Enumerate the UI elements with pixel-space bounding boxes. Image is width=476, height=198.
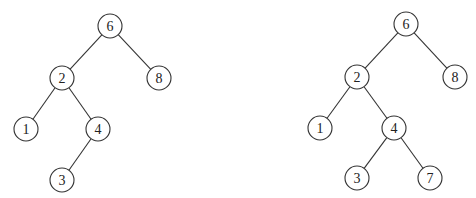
node-label: 2 [59,71,66,86]
node-label: 7 [427,171,434,186]
tree-node: 3 [345,166,369,190]
tree-node: 6 [98,14,122,38]
node-label: 8 [452,70,459,85]
tree-right-edges [327,33,447,169]
tree-node: 4 [382,116,406,140]
node-label: 2 [354,70,361,85]
edges-layer [33,33,447,170]
tree-right-nodes: 6281437 [308,12,467,190]
tree-left-nodes: 628143 [14,14,171,192]
node-label: 3 [354,171,361,186]
tree-node: 4 [86,117,110,141]
node-label: 1 [317,121,324,136]
tree-node: 1 [308,116,332,140]
tree-edge [33,88,55,119]
tree-edge [118,35,151,70]
tree-edge [364,87,387,119]
tree-edge [414,33,447,68]
tree-node: 7 [418,166,442,190]
tree-node: 2 [345,65,369,89]
tree-edge [365,33,398,68]
tree-node: 2 [50,66,74,90]
tree-node: 3 [50,168,74,192]
node-label: 4 [391,121,398,136]
tree-node: 6 [394,12,418,36]
node-label: 1 [23,122,30,137]
tree-edge [69,88,91,119]
nodes-layer: 6281436281437 [14,12,467,192]
node-label: 6 [403,17,410,32]
tree-node: 1 [14,117,38,141]
node-label: 4 [95,122,102,137]
tree-edge [69,139,91,170]
node-label: 8 [156,71,163,86]
tree-diagram-canvas: 6281436281437 [0,0,476,198]
tree-left-edges [33,35,151,170]
tree-edge [364,138,387,169]
tree-edge [327,87,350,119]
node-label: 6 [107,19,114,34]
node-label: 3 [59,173,66,188]
tree-node: 8 [147,66,171,90]
tree-edge [401,138,423,169]
tree-node: 8 [443,65,467,89]
tree-edge [70,35,102,69]
